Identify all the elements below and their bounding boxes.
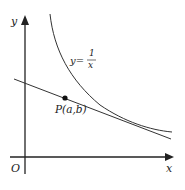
curve-numerator: 1 [89, 48, 95, 58]
point-p [62, 95, 67, 100]
x-axis-arrow-icon [165, 153, 174, 161]
point-label: P(a,b) [54, 103, 87, 115]
origin-label: O [11, 162, 20, 175]
curve-denominator: x [88, 60, 93, 70]
y-axis-arrow-icon [21, 15, 29, 25]
diagram-canvas: y x O y= 1 x P(a,b) [0, 0, 185, 190]
curve-equation-lhs: y= [69, 55, 84, 66]
y-axis-label: y [10, 15, 18, 28]
x-axis-label: x [166, 162, 173, 175]
tangent-line [14, 79, 171, 139]
